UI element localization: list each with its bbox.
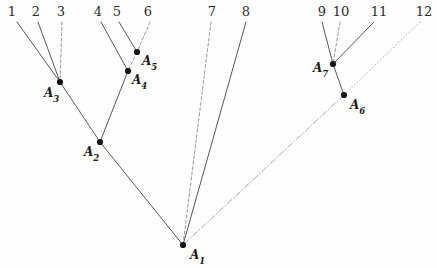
node-label-subscript-A6: 6 [359,106,365,116]
node-label-subscript-A2: 2 [93,153,99,163]
branch-leaf-2 [38,22,60,82]
tree-graphic [0,0,437,268]
node-label-A2: A2 [84,146,99,161]
node-dot-A1[interactable] [180,242,186,248]
node-label-A4: A4 [132,74,147,89]
node-label-base-A7: A [313,61,322,75]
node-label-base-A1: A [190,248,199,262]
node-label-base-A5: A [142,54,151,68]
leaf-label-9: 9 [318,5,326,18]
node-label-A3: A3 [44,87,59,102]
leaf-label-4: 4 [94,5,102,18]
node-layer [57,49,347,248]
node-label-A1: A1 [190,249,205,264]
node-label-subscript-A4: 4 [141,81,147,91]
leaf-label-10: 10 [333,5,350,18]
branch-A5-to-A4 [128,52,137,71]
leaf-label-3: 3 [57,5,65,18]
node-label-subscript-A7: 7 [322,69,328,79]
branch-A6-to-A1 [183,95,344,245]
node-dot-A5[interactable] [134,49,140,55]
leaf-label-5: 5 [113,5,121,18]
node-label-subscript-A1: 1 [199,256,205,266]
leaf-label-12: 12 [416,5,433,18]
branch-leaf-5 [119,22,137,52]
branch-leaf-3 [60,22,62,82]
leaf-label-2: 2 [32,5,40,18]
leaf-label-8: 8 [242,5,250,18]
branch-A2-to-A1 [100,142,183,245]
branch-A4-to-A2 [100,71,128,142]
node-label-base-A4: A [132,73,141,87]
node-dot-A7[interactable] [330,61,336,67]
branch-A3-to-A2 [60,82,100,142]
node-dot-A4[interactable] [125,68,131,74]
node-label-A6: A6 [350,99,365,114]
node-dot-A3[interactable] [57,79,63,85]
leaf-label-11: 11 [371,5,388,18]
tree-diagram-figure: 123456789101112 A1A2A3A4A5A6A7 [0,0,437,268]
leaf-label-7: 7 [208,5,216,18]
node-dot-A6[interactable] [341,92,347,98]
leaf-label-1: 1 [8,5,16,18]
node-label-base-A2: A [84,145,93,159]
node-label-subscript-A3: 3 [53,94,59,104]
branch-leaf-12 [344,22,420,95]
branch-A7-to-A6 [333,64,344,95]
node-label-A7: A7 [313,62,328,77]
node-label-subscript-A5: 5 [151,62,157,72]
branch-layer [17,22,420,245]
branch-leaf-6 [137,22,150,52]
leaf-label-6: 6 [144,5,152,18]
node-label-base-A6: A [350,98,359,112]
branch-leaf-9 [322,22,333,64]
branch-leaf-4 [101,22,128,71]
branch-leaf-1 [17,22,60,82]
branch-leaf-7 [183,22,211,245]
node-label-A5: A5 [142,55,157,70]
branch-leaf-8 [183,22,246,245]
node-dot-A2[interactable] [97,139,103,145]
node-label-base-A3: A [44,86,53,100]
